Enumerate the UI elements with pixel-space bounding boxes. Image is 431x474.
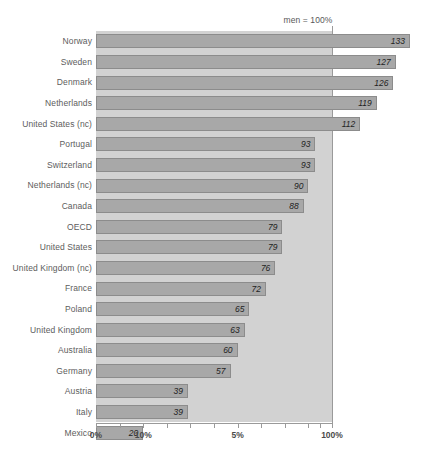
- bar-row: 79: [96, 216, 416, 237]
- axis-tick: [261, 423, 262, 428]
- bar-row: 90: [96, 175, 416, 196]
- category-label: France: [0, 278, 92, 299]
- bar-value-label: 79: [268, 222, 277, 231]
- category-label: Norway: [0, 31, 92, 52]
- bar: 79: [96, 220, 282, 234]
- bar-value-label: 93: [301, 161, 310, 170]
- bar-row: 72: [96, 278, 416, 299]
- bar-row: 76: [96, 258, 416, 279]
- bar: 39: [96, 405, 188, 419]
- category-label: Mexico: [0, 422, 92, 443]
- category-label: Netherlands (nc): [0, 175, 92, 196]
- bar-row: 39: [96, 402, 416, 423]
- bar-row: 60: [96, 340, 416, 361]
- bar: 126: [96, 76, 393, 90]
- bar-row: 57: [96, 361, 416, 382]
- axis-tick-label: 0%: [90, 430, 102, 440]
- axis-tick: [320, 423, 321, 428]
- category-label: Canada: [0, 196, 92, 217]
- axis-tick-label: 5%: [231, 430, 243, 440]
- bar: 119: [96, 96, 377, 110]
- category-label: Australia: [0, 340, 92, 361]
- category-label: OECD: [0, 216, 92, 237]
- bar-value-label: 39: [174, 387, 183, 396]
- axis-tick: [190, 423, 191, 428]
- category-label: Austria: [0, 381, 92, 402]
- bar-value-label: 72: [251, 284, 260, 293]
- bar: 72: [96, 282, 266, 296]
- axis-tick-label: 100%: [321, 430, 343, 440]
- bar-row: 119: [96, 93, 416, 114]
- category-label: United Kingdom (nc): [0, 258, 92, 279]
- bar: 90: [96, 179, 308, 193]
- bar-row: 127: [96, 52, 416, 73]
- bar-value-label: 119: [358, 99, 372, 108]
- bar: 93: [96, 158, 315, 172]
- bar-value-label: 65: [235, 305, 244, 314]
- bar-chart: men = 100% NorwaySwedenDenmarkNetherland…: [0, 0, 431, 474]
- category-label: Netherlands: [0, 93, 92, 114]
- bar-row: 39: [96, 381, 416, 402]
- bar: 127: [96, 55, 396, 69]
- category-label: Italy: [0, 402, 92, 423]
- bar-row: 79: [96, 237, 416, 258]
- bar: 133: [96, 34, 410, 48]
- bar-value-label: 133: [391, 37, 405, 46]
- bar-row: 133: [96, 31, 416, 52]
- bar-row: 88: [96, 196, 416, 217]
- bar-row: 126: [96, 72, 416, 93]
- bar-row: 65: [96, 299, 416, 320]
- bar-value-label: 126: [374, 78, 388, 87]
- bar: 76: [96, 261, 275, 275]
- category-label: United Kingdom: [0, 319, 92, 340]
- bar-row: 112: [96, 113, 416, 134]
- bar-value-label: 60: [223, 346, 232, 355]
- bar: 57: [96, 364, 231, 378]
- axis-tick: [285, 423, 286, 428]
- axis-tick: [332, 423, 333, 428]
- bar-value-label: 57: [216, 367, 225, 376]
- axis-tick: [120, 423, 121, 428]
- bar: 39: [96, 384, 188, 398]
- category-label: Portugal: [0, 134, 92, 155]
- axis-tick: [308, 423, 309, 428]
- bar-row: 63: [96, 319, 416, 340]
- bar: 65: [96, 302, 249, 316]
- bar-value-label: 112: [342, 120, 356, 129]
- bar: 93: [96, 137, 315, 151]
- reference-annotation: men = 100%: [248, 15, 368, 25]
- axis-tick-label: 10%: [135, 430, 152, 440]
- category-label: Sweden: [0, 52, 92, 73]
- bar: 60: [96, 343, 238, 357]
- bar-row: 93: [96, 155, 416, 176]
- axis-tick: [167, 423, 168, 428]
- bar-value-label: 90: [294, 181, 303, 190]
- bar-value-label: 127: [377, 58, 391, 67]
- category-label: Germany: [0, 361, 92, 382]
- bar-row: 93: [96, 134, 416, 155]
- bar-series: 1331271261191129393908879797672656360573…: [96, 31, 416, 422]
- axis-tick: [143, 423, 144, 428]
- bar-value-label: 76: [261, 264, 270, 273]
- axis-tick: [96, 423, 97, 428]
- category-label: Poland: [0, 299, 92, 320]
- bar-value-label: 88: [289, 202, 298, 211]
- category-label: United States (nc): [0, 113, 92, 134]
- category-label: United States: [0, 237, 92, 258]
- bar-value-label: 39: [174, 408, 183, 417]
- bar: 112: [96, 117, 360, 131]
- bar-value-label: 79: [268, 243, 277, 252]
- axis-tick: [214, 423, 215, 428]
- bar: 88: [96, 199, 304, 213]
- bar: 79: [96, 240, 282, 254]
- bar-value-label: 93: [301, 140, 310, 149]
- category-label: Switzerland: [0, 155, 92, 176]
- category-axis-labels: NorwaySwedenDenmarkNetherlandsUnited Sta…: [0, 31, 92, 422]
- axis-tick: [238, 423, 239, 428]
- bar-value-label: 63: [230, 325, 239, 334]
- category-label: Denmark: [0, 72, 92, 93]
- bar: 63: [96, 323, 245, 337]
